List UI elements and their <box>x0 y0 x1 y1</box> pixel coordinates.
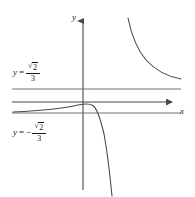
lower-asymptote-label: y=− √2 3 <box>13 122 46 144</box>
x-axis-label: x <box>180 106 184 116</box>
y-axis-label: y <box>72 12 76 22</box>
lower-label-denominator: 3 <box>32 134 46 144</box>
plot-canvas <box>0 0 195 197</box>
radical-sign: √ <box>34 121 38 130</box>
curve-left-lower-branch <box>13 104 112 196</box>
upper-label-variable: y <box>13 67 17 77</box>
square-root-icon: √2 <box>34 122 44 133</box>
radicand: 2 <box>32 62 38 73</box>
upper-label-equals: = <box>19 67 24 77</box>
curve-upper-right-branch <box>128 18 181 79</box>
upper-label-fraction: √2 3 <box>26 62 40 84</box>
lower-label-minus-sign: − <box>26 127 31 137</box>
lower-label-numerator: √2 <box>32 122 46 134</box>
radical-sign: √ <box>28 61 32 70</box>
upper-label-numerator: √2 <box>26 62 40 74</box>
upper-label-denominator: 3 <box>26 74 40 84</box>
lower-label-equals: = <box>19 127 24 137</box>
lower-label-variable: y <box>13 127 17 137</box>
graph-figure: y x y= √2 3 y=− √2 3 <box>0 0 195 197</box>
upper-asymptote-label: y= √2 3 <box>13 62 40 84</box>
lower-label-fraction: √2 3 <box>32 122 46 144</box>
square-root-icon: √2 <box>28 62 38 73</box>
radicand: 2 <box>38 122 44 133</box>
